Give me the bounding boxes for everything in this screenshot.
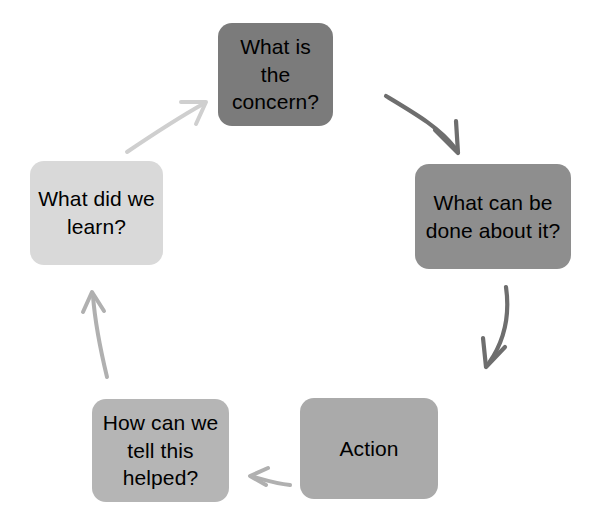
- node-what-did-we-learn[interactable]: What did we learn?: [30, 161, 163, 265]
- node-what-is-the-concern[interactable]: What is the concern?: [218, 23, 333, 126]
- arrow-how-tell-to-learn: [83, 292, 107, 377]
- arrow-learn-to-concern: [127, 102, 206, 152]
- node-how-can-we-tell-this-helped[interactable]: How can we tell this helped?: [92, 399, 229, 502]
- arrow-what-can-be-done-to-action: [483, 287, 507, 367]
- node-what-can-be-done-about-it[interactable]: What can be done about it?: [415, 164, 571, 269]
- arrow-action-to-how-tell: [250, 468, 290, 485]
- diagram-canvas: What is the concern? What can be done ab…: [0, 0, 594, 526]
- arrow-concern-to-what-can-be-done: [386, 96, 458, 153]
- node-action[interactable]: Action: [300, 398, 438, 499]
